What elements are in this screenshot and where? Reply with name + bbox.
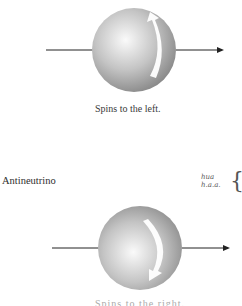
particle-sphere <box>98 206 182 290</box>
antineutrino-label: Antineutrino <box>2 175 56 186</box>
direction-arrow-icon <box>217 47 224 53</box>
particle-sphere <box>92 8 176 92</box>
antineutrino-diagram <box>0 205 242 297</box>
handwritten-note: hua h.a.a. <box>201 173 221 189</box>
bottom-caption: Spins to the right. <box>95 298 185 306</box>
top-particle-diagram <box>0 0 242 100</box>
note-line-2: h.a.a. <box>201 181 221 189</box>
handwritten-bracket: { <box>230 168 242 193</box>
top-caption: Spins to the left. <box>95 103 161 114</box>
note-line-1: hua <box>201 173 221 181</box>
direction-arrow-icon <box>223 245 230 251</box>
